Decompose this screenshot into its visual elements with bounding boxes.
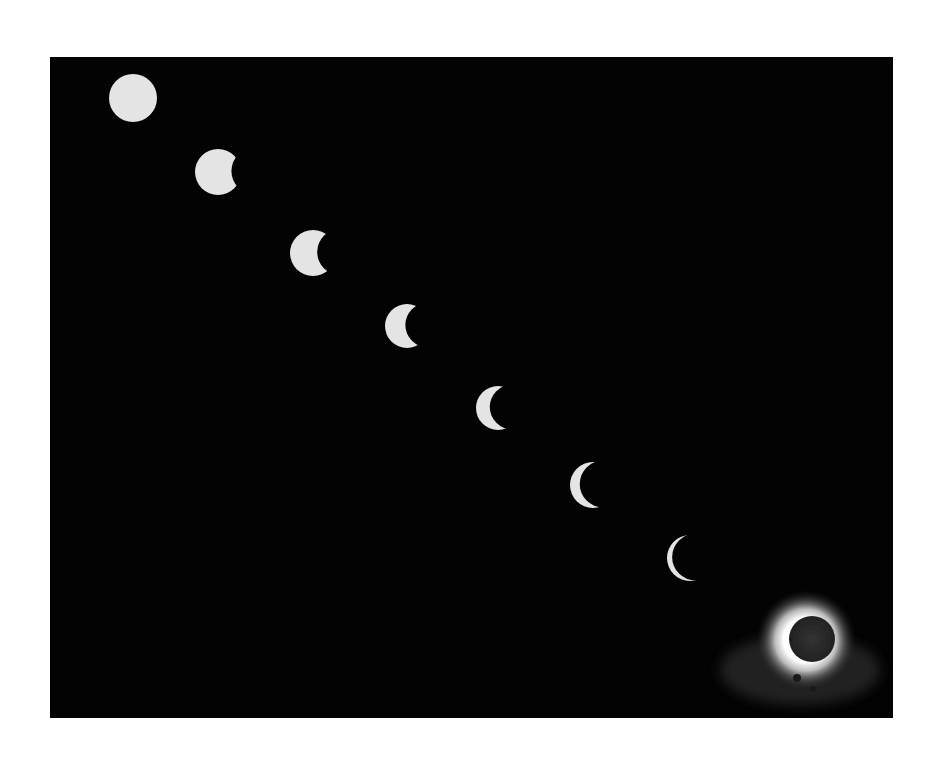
sun-phase-partial-1: [195, 149, 241, 195]
sun-phase-partial-3: [385, 304, 429, 348]
sun-phase-partial-2: [290, 230, 336, 276]
sun-phase-partial-4: [476, 386, 520, 430]
moon-disc: [789, 616, 835, 662]
dark-spot: [790, 638, 793, 641]
dark-spot: [793, 674, 801, 682]
dark-spot: [810, 686, 816, 692]
sun-phase-partial-5: [570, 462, 616, 508]
sun-phase-full-sun: [109, 74, 157, 122]
dark-spot: [840, 692, 844, 696]
sun-phase-partial-6: [667, 535, 713, 581]
eclipse-photograph: [0, 0, 940, 760]
